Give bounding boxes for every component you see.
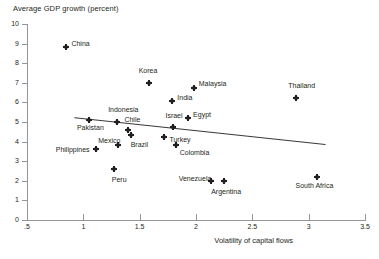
data-point-label: India [177,94,192,102]
data-point-label: Malaysia [199,80,227,88]
data-point-marker[interactable] [170,99,174,103]
y-tick-label: 3 [1,157,19,164]
scatter-chart: Average GDP growth (percent) 01234567891… [0,0,379,259]
x-tick-label: 3 [294,223,324,230]
data-point-label: Philippines [56,146,90,154]
data-point-label: Indonesia [108,106,138,114]
x-tick-label: 1 [68,223,98,230]
data-point-marker[interactable] [186,116,190,120]
data-point-label: Chile [124,116,140,124]
y-tick-label: 4 [1,138,19,145]
x-tick-label: 3.5 [350,223,379,230]
y-tick [22,102,27,103]
x-tick [252,214,253,221]
x-tick [365,214,366,221]
x-tick-label: 2.5 [237,223,267,230]
data-point-label: Mexico [98,137,120,145]
data-point-marker[interactable] [192,86,196,90]
data-point-label: Peru [112,176,127,184]
x-tick [309,214,310,221]
y-tick [22,200,27,201]
data-point-label: Venezuela [179,175,212,183]
x-tick-label: 1.5 [125,223,155,230]
x-tick [196,214,197,221]
y-tick-label: 7 [1,79,19,86]
y-tick-label: 6 [1,98,19,105]
y-tick [22,44,27,45]
x-tick-label: .5 [12,223,42,230]
data-point-label: South Africa [296,182,334,190]
data-point-marker[interactable] [174,143,178,147]
y-tick [22,24,27,25]
data-point-marker[interactable] [147,81,151,85]
data-point-marker[interactable] [294,96,298,100]
y-tick-label: 0 [1,216,19,223]
x-tick [27,214,28,221]
y-tick [22,83,27,84]
y-tick [22,63,27,64]
data-point-marker[interactable] [171,125,175,129]
y-tick [22,161,27,162]
x-tick [140,214,141,221]
data-point-marker[interactable] [64,45,68,49]
y-tick-label: 8 [1,59,19,66]
x-tick-label: 2 [181,223,211,230]
data-point-label: Pakistan [77,124,104,132]
y-tick-label: 9 [1,40,19,47]
data-point-label: China [71,40,89,48]
y-tick [22,142,27,143]
y-axis-line [27,24,28,221]
y-tick-label: 2 [1,177,19,184]
data-point-label: Brazil [131,141,149,149]
data-point-label: Korea [139,67,158,75]
data-point-label: Argentina [211,188,241,196]
data-point-marker[interactable] [315,175,319,179]
y-tick-label: 1 [1,196,19,203]
y-tick [22,181,27,182]
x-tick [83,214,84,221]
data-point-marker[interactable] [129,133,133,137]
data-point-marker[interactable] [222,179,226,183]
y-axis-title: Average GDP growth (percent) [13,4,119,13]
data-point-marker[interactable] [126,128,130,132]
data-point-marker[interactable] [162,135,166,139]
data-point-marker[interactable] [94,147,98,151]
x-axis-title: Volatility of capital flows [214,236,293,245]
data-point-label: Thailand [288,82,315,90]
data-point-label: Egypt [193,111,211,119]
data-point-label: Colombia [180,149,210,157]
data-point-marker[interactable] [112,167,116,171]
y-tick-label: 10 [1,20,19,27]
y-tick [22,122,27,123]
data-point-marker[interactable] [115,120,119,124]
data-point-label: Israel [165,112,182,120]
data-point-marker[interactable] [87,118,91,122]
y-tick-label: 5 [1,118,19,125]
